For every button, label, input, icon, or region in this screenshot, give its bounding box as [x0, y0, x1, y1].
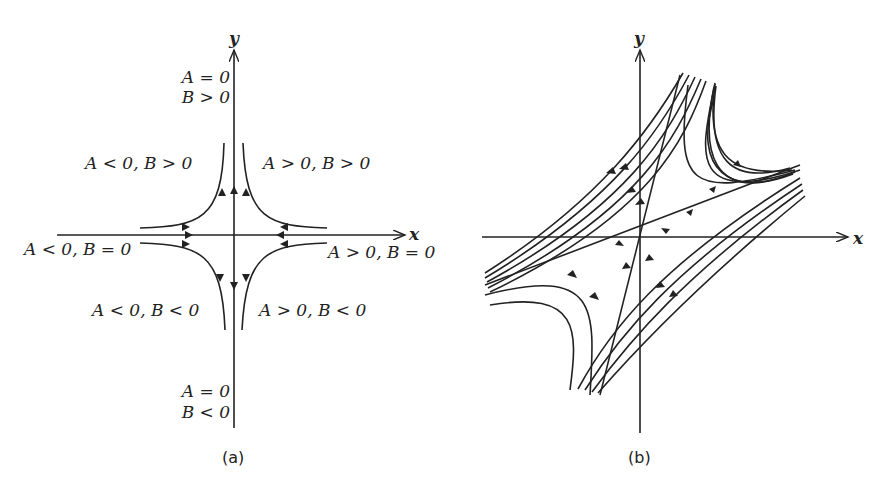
- panel-a-caption: (a): [222, 450, 244, 466]
- panel-a-y-axis-label: y: [229, 30, 239, 47]
- panel-b-caption: (b): [628, 450, 651, 466]
- panel-a-arrows: [182, 186, 288, 290]
- label-top-axis-line1: A = 0: [150, 69, 230, 86]
- label-bottom-axis-line2: B < 0: [150, 404, 230, 421]
- label-left-axis: A < 0, B = 0: [24, 241, 131, 258]
- label-lower-right: A > 0, B < 0: [259, 302, 366, 319]
- label-bottom-axis-line1: A = 0: [150, 383, 230, 400]
- label-top-axis-line2: B > 0: [150, 89, 230, 106]
- panel-b-y-axis-label: y: [634, 30, 644, 47]
- label-upper-left: A < 0, B > 0: [85, 155, 192, 172]
- panel-b: [482, 50, 848, 433]
- panel-a-x-axis-label: x: [409, 226, 419, 243]
- label-lower-left: A < 0, B < 0: [92, 302, 199, 319]
- label-right-axis: A > 0, B = 0: [328, 244, 435, 261]
- phase-portrait-diagram: [0, 0, 879, 491]
- panel-b-x-axis-label: x: [853, 230, 863, 247]
- label-upper-right: A > 0, B > 0: [263, 155, 370, 172]
